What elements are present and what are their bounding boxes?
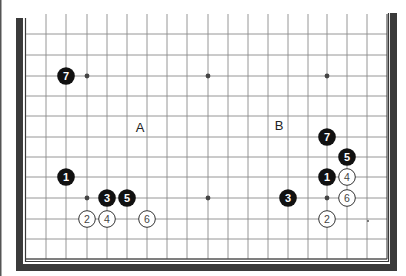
black-stone: 3: [98, 189, 116, 207]
stone-move-number: 4: [104, 213, 110, 225]
stone-move-number: 7: [63, 70, 69, 82]
stone-move-number: 4: [344, 171, 350, 183]
black-stone: 1: [57, 168, 75, 186]
page-gutter-line: [0, 0, 2, 276]
stone-move-number: 1: [63, 171, 69, 183]
stone-move-number: 5: [344, 151, 350, 163]
stone-move-number: 7: [324, 131, 330, 143]
star-point-icon: [85, 196, 90, 201]
white-stone: 6: [139, 211, 156, 228]
stone-move-number: 2: [84, 213, 90, 225]
board-marks: [367, 220, 369, 222]
star-point-icon: [206, 196, 211, 201]
stones: 71352467514362: [57, 67, 356, 227]
position-label-a: A: [136, 120, 145, 135]
black-stone: 7: [57, 67, 75, 85]
white-stone: 2: [79, 211, 96, 228]
star-point-icon: [325, 74, 330, 79]
stone-move-number: 1: [324, 171, 330, 183]
white-stone: 4: [99, 211, 116, 228]
star-point-icon: [85, 74, 90, 79]
black-stone: 3: [279, 189, 297, 207]
star-point-icon: [206, 74, 211, 79]
go-board-diagram: AB 71352467514362: [0, 0, 406, 276]
black-stone: 1: [318, 168, 336, 186]
stone-move-number: 3: [104, 192, 110, 204]
frame-bottom-bar: [16, 264, 397, 271]
stone-move-number: 6: [344, 192, 350, 204]
white-stone: 4: [339, 169, 356, 186]
black-stone: 5: [338, 148, 356, 166]
stone-move-number: 5: [124, 192, 130, 204]
stone-move-number: 6: [144, 213, 150, 225]
stone-move-number: 3: [285, 192, 291, 204]
stone-move-number: 2: [324, 213, 330, 225]
frame-left-bar: [16, 18, 23, 271]
small-dot-mark: [367, 220, 369, 222]
board-frame: [16, 13, 397, 271]
star-point-icon: [325, 196, 330, 201]
white-stone: 2: [319, 211, 336, 228]
white-stone: 6: [339, 190, 356, 207]
black-stone: 7: [318, 128, 336, 146]
black-stone: 5: [118, 189, 136, 207]
frame-right-bar: [390, 13, 397, 271]
position-labels: AB: [136, 118, 284, 135]
go-board: AB 71352467514362: [0, 0, 406, 276]
position-label-b: B: [275, 118, 284, 133]
